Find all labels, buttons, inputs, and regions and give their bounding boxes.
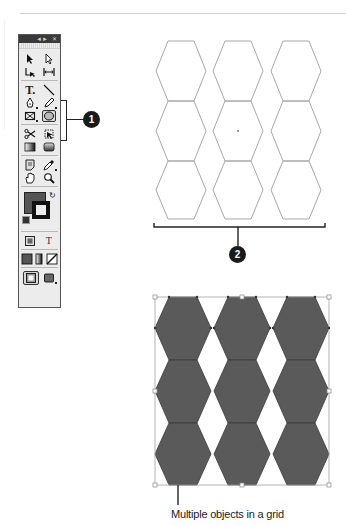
hexagon-filled <box>155 297 211 360</box>
hexagon-outline <box>271 41 321 101</box>
hexagon-filled <box>155 423 211 485</box>
hexagon-outline <box>213 41 263 101</box>
hexagon-filled <box>155 360 211 423</box>
callout-2: 2 <box>229 246 246 263</box>
hexagon-outline <box>156 161 206 219</box>
hexagon-outline <box>213 161 263 219</box>
center-point <box>237 130 239 132</box>
hexagon-outline <box>156 41 206 101</box>
hexagon-outline <box>271 161 321 219</box>
figure-caption: Multiple objects in a grid <box>171 508 284 520</box>
hexagon-filled <box>214 360 270 423</box>
hexagon-filled <box>273 360 329 423</box>
hexagon-filled <box>214 297 270 360</box>
callout-2-bracket <box>154 223 325 246</box>
hexagon-grid-filled <box>155 297 329 485</box>
hexagon-outline <box>271 101 321 161</box>
hexagon-grid-outline <box>0 0 346 526</box>
hexagon-outline <box>156 101 206 161</box>
hexagon-filled <box>273 423 329 485</box>
hexagon-filled <box>273 297 329 360</box>
hexagon-filled <box>214 423 270 485</box>
